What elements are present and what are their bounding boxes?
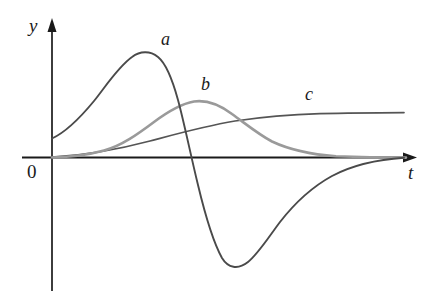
curve-b — [52, 101, 406, 158]
y-axis-label: y — [29, 16, 37, 35]
plot-area — [0, 0, 431, 303]
curve-label-a: a — [161, 30, 170, 48]
y-axis-arrowhead — [48, 18, 57, 32]
curve-label-c: c — [305, 85, 313, 103]
curve-a — [52, 52, 404, 267]
x-axis-label: t — [408, 163, 413, 182]
curve-label-b: b — [201, 75, 210, 93]
origin-label: 0 — [27, 162, 37, 181]
response-curves-figure: y t 0 a b c — [0, 0, 431, 303]
